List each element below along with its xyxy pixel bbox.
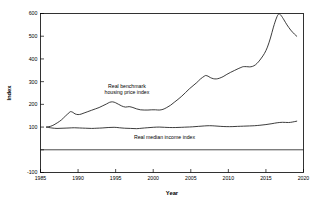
y-tick-label--100: -100: [27, 169, 37, 175]
housing-series-annotation-line-1: Real benchmark: [108, 83, 146, 89]
index-line-chart: 19851990199520002005201020152020 6005004…: [0, 0, 319, 204]
x-tick-label-1985: 1985: [35, 175, 47, 181]
x-tick-label-1995: 1995: [110, 175, 122, 181]
x-tick-label-1990: 1990: [72, 175, 84, 181]
x-tick-label-2010: 2010: [223, 175, 235, 181]
y-tick-label-400: 400: [29, 56, 38, 62]
y-tick-label-500: 500: [29, 33, 38, 39]
housing-series-annotation-line-2: housing price index: [105, 89, 150, 95]
x-tick-label-2000: 2000: [147, 175, 159, 181]
income-series-annotation-line-1: Real median income index: [134, 134, 196, 140]
chart-background: [0, 0, 319, 204]
x-tick-label-2020: 2020: [298, 175, 310, 181]
y-axis-title: Index: [6, 85, 12, 101]
x-axis-title: Year: [166, 190, 179, 196]
y-tick-label-600: 600: [29, 10, 38, 16]
y-tick-label-300: 300: [29, 79, 38, 85]
x-tick-label-2015: 2015: [260, 175, 272, 181]
chart-figure: 19851990199520002005201020152020 6005004…: [0, 0, 319, 204]
y-tick-label-200: 200: [29, 101, 38, 107]
x-tick-label-2005: 2005: [185, 175, 197, 181]
y-tick-label-100: 100: [29, 124, 38, 130]
